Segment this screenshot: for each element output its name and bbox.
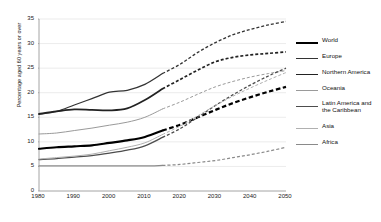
series-line-solid: [39, 137, 163, 159]
x-tick-2000: 2000: [92, 193, 126, 199]
legend-label: Africa: [322, 138, 338, 145]
y-tick-30: 30: [16, 40, 34, 46]
y-tick-20: 20: [16, 89, 34, 95]
series-line-solid: [39, 74, 163, 115]
series-oceania: [39, 71, 286, 134]
legend-label: Oceania: [322, 84, 345, 91]
legend-swatch-icon: [296, 90, 318, 91]
legend-item[interactable]: Northern America: [296, 68, 381, 84]
legend-swatch-icon: [296, 42, 318, 44]
series-line-projected: [163, 147, 287, 165]
y-tick-15: 15: [16, 113, 34, 119]
legend-label: Latin America and the Caribbean: [322, 99, 372, 114]
x-tick-2020: 2020: [162, 193, 196, 199]
chart-legend: WorldEuropeNorthern AmericaOceaniaLatin …: [296, 36, 381, 154]
legend-item[interactable]: World: [296, 36, 381, 52]
series-line-projected: [163, 21, 287, 73]
x-tick-2040: 2040: [233, 193, 267, 199]
legend-swatch-icon: [296, 58, 318, 59]
legend-swatch-icon: [296, 144, 318, 145]
x-axis-tick-labels: 19801990200020102020203020402050: [0, 193, 381, 205]
legend-label: Asia: [322, 122, 334, 129]
series-line-projected: [163, 52, 287, 89]
legend-item[interactable]: Africa: [296, 138, 381, 154]
series-line-projected: [163, 73, 287, 135]
legend-label: Europe: [322, 52, 342, 59]
legend-item[interactable]: Europe: [296, 52, 381, 68]
series-line-projected: [163, 87, 287, 131]
legend-swatch-icon: [296, 74, 318, 75]
series-line-solid: [39, 109, 163, 134]
plot-area: [38, 18, 285, 190]
legend-label: Northern America: [322, 68, 370, 75]
legend-label: World: [322, 36, 338, 43]
x-tick-2030: 2030: [197, 193, 231, 199]
legend-item[interactable]: Asia: [296, 122, 381, 138]
y-axis-tick-labels: 05101520253035: [12, 0, 34, 222]
y-tick-35: 35: [16, 15, 34, 21]
y-tick-5: 5: [16, 162, 34, 168]
legend-item[interactable]: Latin America and the Caribbean: [296, 100, 381, 122]
series-world: [39, 87, 286, 149]
x-tick-2050: 2050: [268, 193, 302, 199]
legend-swatch-icon: [296, 106, 318, 107]
chart-canvas: [38, 18, 287, 192]
x-tick-1980: 1980: [21, 193, 55, 199]
legend-swatch-icon: [296, 128, 318, 129]
chart-figure: Percentage aged 60 years or over 0510152…: [0, 0, 381, 222]
y-tick-25: 25: [16, 64, 34, 70]
y-tick-10: 10: [16, 138, 34, 144]
x-tick-1990: 1990: [56, 193, 90, 199]
series-line-solid: [39, 165, 163, 166]
x-tick-2010: 2010: [127, 193, 161, 199]
legend-item[interactable]: Oceania: [296, 84, 381, 100]
